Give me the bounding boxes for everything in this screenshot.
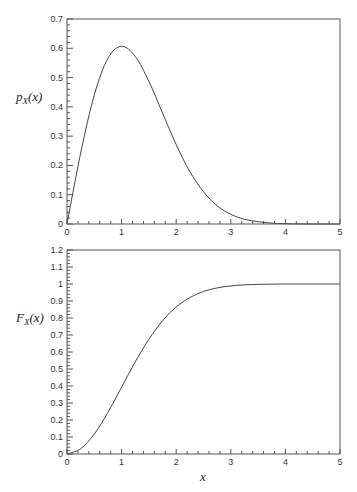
y-tick-label: 0.8 — [50, 313, 63, 323]
x-tick-label: 2 — [174, 457, 179, 467]
pdf-y-axis-label: pX(x) — [15, 89, 42, 106]
y-tick-label: 1 — [58, 279, 63, 289]
y-tick-label: 0.7 — [50, 14, 63, 24]
pdf-y-tick-labels: 00.10.20.30.40.50.60.7 — [50, 14, 63, 229]
y-tick-label: 0.4 — [50, 381, 63, 391]
x-tick-label: 4 — [283, 457, 288, 467]
x-tick-label: 3 — [228, 457, 233, 467]
cdf-curve — [67, 284, 340, 454]
y-tick-label: 0.2 — [50, 160, 63, 170]
y-tick-label: 0.6 — [50, 347, 63, 357]
x-tick-label: 5 — [337, 457, 342, 467]
y-tick-label: 1.1 — [50, 262, 63, 272]
x-tick-label: 0 — [64, 227, 69, 237]
y-tick-label: 0.2 — [50, 415, 63, 425]
y-tick-label: 1.2 — [50, 245, 63, 255]
y-tick-label: 0.5 — [50, 364, 63, 374]
y-tick-label: 0 — [58, 219, 63, 229]
x-tick-label: 4 — [283, 227, 288, 237]
cdf-x-tick-labels: 012345 — [64, 457, 342, 467]
x-tick-label: 3 — [228, 227, 233, 237]
cdf-y-axis-label: FX(x) — [15, 310, 44, 327]
x-tick-label: 0 — [64, 457, 69, 467]
pdf-panel: 012345 00.10.20.30.40.50.60.7 pX(x) — [15, 14, 343, 237]
y-tick-label: 0.9 — [50, 296, 63, 306]
y-tick-label: 0 — [58, 449, 63, 459]
y-tick-label: 0.5 — [50, 73, 63, 83]
pdf-ticks — [67, 19, 340, 224]
cdf-y-tick-labels: 00.10.20.30.40.50.60.70.80.911.11.2 — [50, 245, 63, 459]
y-tick-label: 0.3 — [50, 131, 63, 141]
y-tick-label: 0.4 — [50, 102, 63, 112]
y-tick-label: 0.1 — [50, 432, 63, 442]
cdf-ticks — [67, 250, 340, 454]
y-tick-label: 0.6 — [50, 43, 63, 53]
pdf-curve — [67, 46, 340, 224]
x-tick-label: 5 — [337, 227, 342, 237]
y-tick-label: 0.3 — [50, 398, 63, 408]
x-tick-label: 2 — [174, 227, 179, 237]
cdf-plot-frame — [67, 250, 340, 454]
y-tick-label: 0.7 — [50, 330, 63, 340]
x-tick-label: 1 — [119, 227, 124, 237]
y-tick-label: 0.1 — [50, 190, 63, 200]
cdf-panel: 012345 00.10.20.30.40.50.60.70.80.911.11… — [15, 245, 343, 484]
pdf-x-tick-labels: 012345 — [64, 227, 342, 237]
x-tick-label: 1 — [119, 457, 124, 467]
x-axis-label: x — [199, 469, 206, 484]
figure: 012345 00.10.20.30.40.50.60.7 pX(x) 0123… — [0, 0, 357, 492]
pdf-plot-frame — [67, 19, 340, 224]
